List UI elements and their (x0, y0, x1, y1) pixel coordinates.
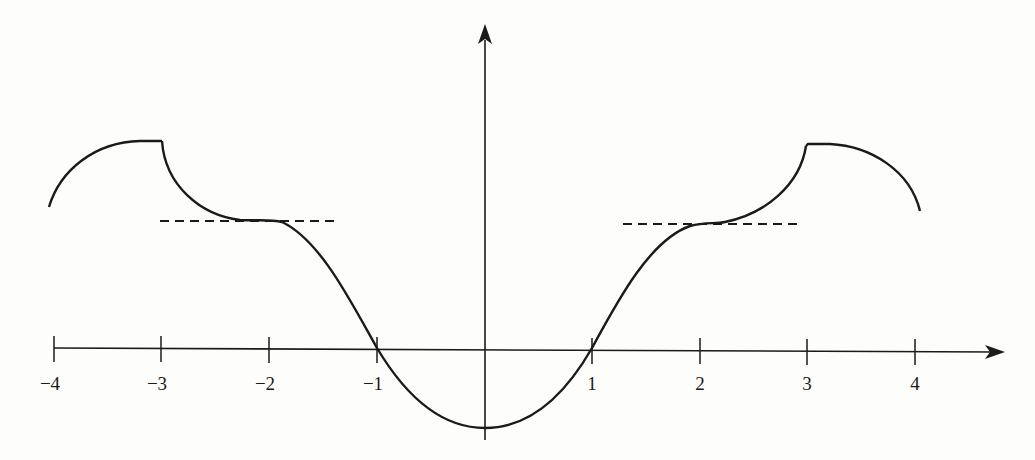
function-graph: −4 −3 −2 −1 1 2 3 4 (0, 0, 1035, 460)
tick-label: 3 (802, 373, 812, 394)
tick-label: −1 (363, 373, 383, 394)
tick-label: −2 (255, 373, 275, 394)
x-axis (54, 348, 995, 352)
x-tick-labels: −4 −3 −2 −1 1 2 3 4 (40, 373, 920, 394)
curve-right-arc (806, 144, 920, 211)
tick-label: 1 (587, 373, 597, 394)
tick-label: −4 (40, 373, 61, 394)
curve-left-arc (49, 141, 162, 207)
tick-label: −3 (147, 373, 167, 394)
tick-label: 4 (910, 373, 920, 394)
tick-label: 2 (695, 373, 705, 394)
